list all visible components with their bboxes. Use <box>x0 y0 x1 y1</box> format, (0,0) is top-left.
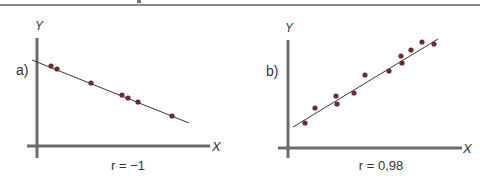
y-axis-label: Y <box>285 21 294 35</box>
data-point <box>88 80 93 85</box>
y-axis-label: Y <box>35 19 44 33</box>
panel-label: b) <box>266 63 278 79</box>
chart-panel-a: Y X a) r = −1 <box>16 19 222 173</box>
x-axis-label: X <box>211 139 222 154</box>
data-points <box>48 63 174 118</box>
data-point <box>333 93 338 98</box>
chart-panel-b: Y X b) r = 0,98 <box>266 21 473 173</box>
data-point <box>386 68 391 73</box>
data-point <box>419 39 424 44</box>
correlation-caption: r = −1 <box>111 158 145 173</box>
data-point <box>398 53 403 58</box>
data-point <box>399 60 404 65</box>
panel-label: a) <box>16 62 28 78</box>
data-point <box>119 92 124 97</box>
correlation-caption: r = 0,98 <box>359 158 403 173</box>
data-point <box>351 90 356 95</box>
x-axis-label: X <box>462 141 473 156</box>
data-point <box>169 113 174 118</box>
data-point <box>125 95 130 100</box>
data-point <box>54 66 59 71</box>
scatter-figure: Y X a) r = −1 Y X b) r = 0,98 <box>0 0 480 190</box>
data-point <box>334 101 339 106</box>
data-point <box>302 120 307 125</box>
data-point <box>408 47 413 52</box>
trend-line <box>293 39 438 127</box>
data-point <box>135 99 140 104</box>
data-point <box>48 63 53 68</box>
data-point <box>431 41 436 46</box>
data-point <box>312 105 317 110</box>
data-point <box>362 72 367 77</box>
